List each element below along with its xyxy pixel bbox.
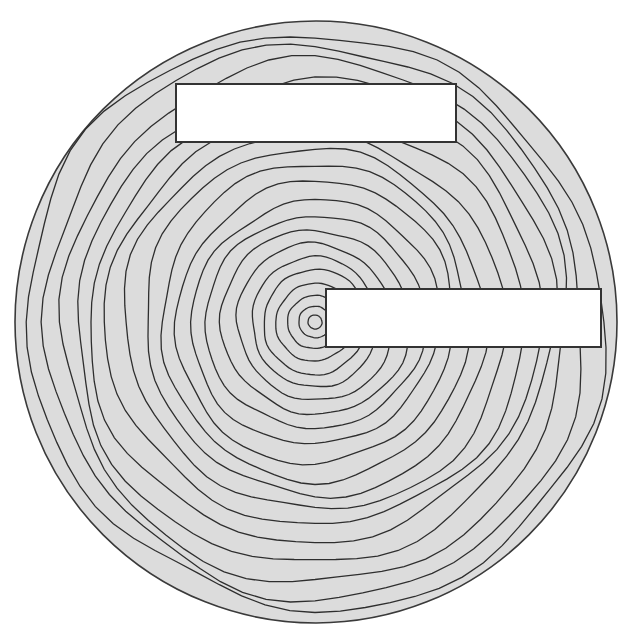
right-label-box	[326, 289, 601, 347]
contour-diagram	[0, 0, 632, 641]
top-label-box	[176, 84, 456, 142]
diagram-canvas	[0, 0, 632, 641]
